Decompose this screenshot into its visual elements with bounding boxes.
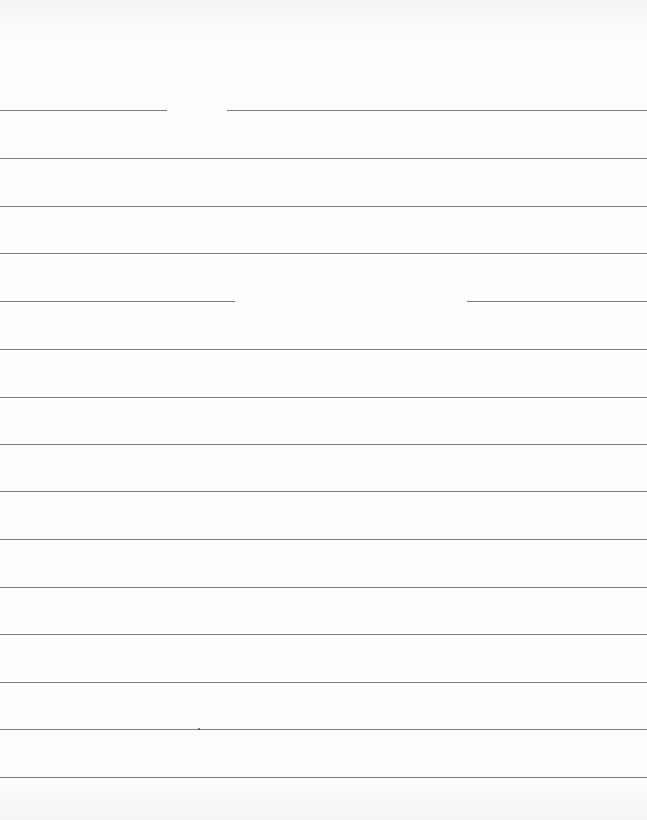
ruled-line <box>0 587 647 588</box>
ruled-line <box>0 397 647 398</box>
ruled-line <box>0 206 647 207</box>
ruled-line <box>0 491 647 492</box>
ruled-line <box>467 301 647 302</box>
ruled-line <box>0 729 647 730</box>
ruled-line <box>0 634 647 635</box>
lined-paper-sheet <box>0 0 647 820</box>
ruled-line <box>0 253 647 254</box>
ruled-line <box>0 301 235 302</box>
ruled-line <box>0 777 647 778</box>
ruled-line <box>0 349 647 350</box>
ruled-line <box>0 158 647 159</box>
ruled-line <box>0 110 167 111</box>
ink-speck <box>198 728 200 730</box>
ruled-line <box>0 539 647 540</box>
ruled-line <box>0 682 647 683</box>
ruled-line <box>227 110 647 111</box>
ruled-line <box>0 444 647 445</box>
